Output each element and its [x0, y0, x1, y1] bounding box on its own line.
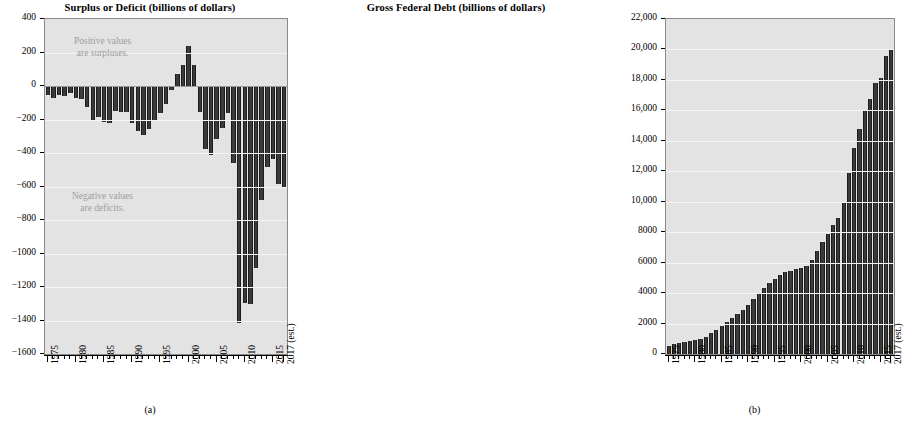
y-tick-mark [40, 18, 44, 19]
chart-title-b: Gross Federal Debt (billions of dollars) [310, 2, 602, 13]
y-tick-label: −1600 [0, 348, 36, 358]
bar [158, 86, 163, 113]
y-tick-label: 200 [0, 47, 36, 57]
x-tick-minor [742, 355, 743, 359]
bar [85, 86, 90, 107]
x-tick-label: 1990 [135, 345, 145, 364]
x-tick-label: 2005 [831, 345, 841, 364]
bar [682, 342, 686, 354]
x-tick-major [188, 355, 189, 362]
x-tick-minor [684, 355, 685, 359]
bar [820, 242, 824, 354]
bar [265, 86, 270, 167]
gridline [666, 263, 894, 264]
bar [91, 86, 96, 121]
y-tick-label: 20,000 [300, 43, 657, 53]
annotation-negative-values: Negative values are deficits. [72, 191, 133, 215]
x-tick-minor [182, 355, 183, 359]
bar [778, 275, 782, 354]
bar [884, 56, 888, 354]
x-tick-major [800, 355, 801, 362]
x-tick-major [244, 355, 245, 362]
x-tick-minor [737, 355, 738, 359]
y-tick-mark [661, 18, 665, 19]
x-tick-minor [148, 355, 149, 359]
bar [74, 86, 79, 98]
bar [141, 86, 146, 135]
y-tick-label: −600 [0, 181, 36, 191]
x-tick-label: 1980 [79, 345, 89, 364]
x-tick-major [774, 355, 775, 362]
x-tick-label: 2015 [884, 345, 894, 364]
bar [810, 260, 814, 354]
bar [773, 279, 777, 354]
bar [96, 86, 101, 117]
gridline [45, 220, 287, 221]
bar [130, 86, 135, 123]
bar [57, 86, 62, 95]
bar [709, 333, 713, 354]
y-tick-label: 14,000 [300, 135, 657, 145]
bar [857, 129, 861, 354]
y-tick-label: 0 [300, 348, 657, 358]
bar [815, 251, 819, 354]
y-tick-mark [40, 253, 44, 254]
x-tick-minor [154, 355, 155, 359]
bar [107, 86, 112, 123]
gridline [45, 86, 287, 87]
y-tick-label: 0 [0, 80, 36, 90]
x-tick-major [47, 355, 48, 362]
x-tick-label: 2010 [857, 345, 867, 364]
gridline [666, 80, 894, 81]
y-tick-mark [40, 52, 44, 53]
x-tick-minor [204, 355, 205, 359]
y-tick-mark [40, 119, 44, 120]
bar [254, 86, 259, 268]
y-tick-label: 2000 [300, 318, 657, 328]
y-tick-mark [40, 286, 44, 287]
bar [46, 86, 51, 95]
x-tick-minor [816, 355, 817, 359]
bar [243, 86, 248, 303]
x-tick-major [103, 355, 104, 362]
annotation-negative-line1: Negative values [72, 191, 133, 203]
y-tick-label: 18,000 [300, 74, 657, 84]
bar [804, 266, 808, 354]
x-tick-major [747, 355, 748, 362]
x-tick-minor [126, 355, 127, 359]
y-tick-mark [661, 353, 665, 354]
x-tick-minor [874, 355, 875, 359]
bar [164, 86, 169, 104]
bar [68, 86, 73, 93]
bar [198, 86, 203, 112]
bar-series-gross-federal-debt [666, 19, 894, 354]
x-tick-minor [710, 355, 711, 359]
bar [192, 65, 197, 86]
x-tick-label: 2000 [804, 345, 814, 364]
bar [868, 99, 872, 354]
bar [79, 86, 84, 99]
y-tick-label: 4000 [300, 287, 657, 297]
x-tick-minor [176, 355, 177, 359]
x-tick-major [694, 355, 695, 362]
y-tick-label: 10,000 [300, 196, 657, 206]
x-tick-label: 2010 [248, 345, 258, 364]
y-tick-mark [661, 231, 665, 232]
y-tick-label: −400 [0, 147, 36, 157]
x-tick-major [159, 355, 160, 362]
y-tick-mark [661, 48, 665, 49]
bar [688, 341, 692, 354]
x-tick-major [668, 355, 669, 362]
y-tick-mark [40, 353, 44, 354]
bar [147, 86, 152, 129]
gridline [666, 49, 894, 50]
y-tick-label: 22,000 [300, 13, 657, 23]
x-tick-minor [715, 355, 716, 359]
gridline [666, 324, 894, 325]
y-tick-mark [40, 85, 44, 86]
x-tick-minor [768, 355, 769, 359]
x-tick-label: 2017 (est.) [894, 323, 904, 364]
bar [836, 218, 840, 354]
y-tick-label: −1200 [0, 281, 36, 291]
y-tick-mark [40, 320, 44, 321]
